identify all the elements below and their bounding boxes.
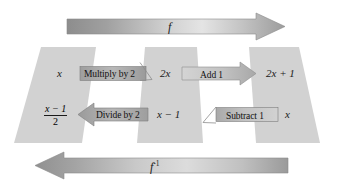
- forward-function-letter: f: [168, 20, 171, 34]
- op-label-add-1: Add 1: [200, 70, 223, 80]
- fraction-numerator: x − 1: [44, 104, 67, 115]
- node-inverse-fraction: x − 1 2: [44, 104, 67, 127]
- forward-function-label: f: [168, 20, 171, 35]
- inverse-function-arrow: [35, 152, 288, 179]
- node-output-2x-plus-1: 2x + 1: [266, 68, 295, 79]
- diagram-svg: [0, 0, 347, 192]
- op-label-multiply-by-2: Multiply by 2: [84, 69, 135, 79]
- node-inverse-input-x: x: [285, 109, 290, 120]
- op-label-divide-by-2: Divide by 2: [96, 110, 140, 120]
- inverse-exponent: -1: [153, 159, 159, 168]
- node-intermediate-2x-text: 2x: [160, 67, 170, 79]
- value-band-right: [249, 47, 320, 143]
- node-intermediate-x-minus-1: x − 1: [157, 109, 180, 120]
- value-bands: [14, 47, 320, 143]
- op-label-subtract-1: Subtract 1: [226, 111, 264, 121]
- value-band-left: [14, 47, 96, 143]
- inverse-function-label: f-1: [150, 159, 160, 175]
- node-input-x: x: [57, 68, 62, 79]
- diagram-canvas: f f-1 x 2x 2x + 1 x − 1 2 x − 1 x Multip…: [0, 0, 347, 192]
- node-intermediate-2x: 2x: [160, 68, 170, 79]
- value-band-middle: [137, 47, 203, 143]
- node-output-2x-plus-1-text: 2x + 1: [266, 67, 295, 79]
- node-intermediate-x-minus-1-text: x − 1: [157, 108, 180, 120]
- forward-function-arrow: [67, 13, 285, 40]
- fraction-denominator: 2: [44, 117, 67, 128]
